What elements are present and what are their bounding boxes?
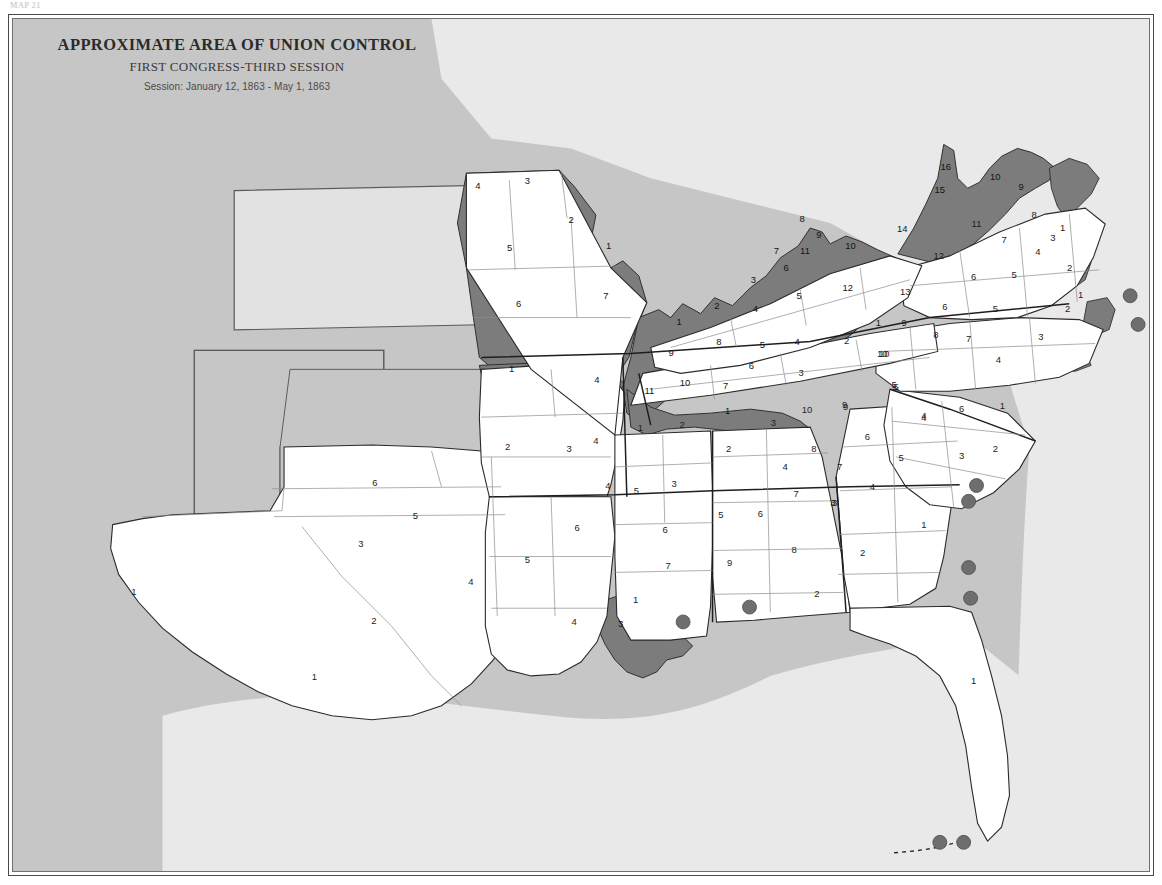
plate-header-note: MAP 21 bbox=[10, 1, 41, 10]
union-port-dot[interactable] bbox=[962, 561, 976, 575]
union-port-dot[interactable] bbox=[933, 835, 947, 849]
union-port-dot[interactable] bbox=[962, 494, 976, 508]
union-port-dot[interactable] bbox=[970, 479, 984, 493]
map-canvas[interactable]: 4325167142389711106352412185964137312101… bbox=[12, 18, 1150, 872]
state-mississippi bbox=[615, 431, 713, 640]
union-port-dot[interactable] bbox=[964, 591, 978, 605]
union-port-dot[interactable] bbox=[676, 615, 690, 629]
union-port-dot[interactable] bbox=[1123, 289, 1137, 303]
union-port-dot[interactable] bbox=[957, 835, 971, 849]
union-control-map[interactable]: 4325167142389711106352412185964137312101… bbox=[13, 19, 1149, 871]
map-plate-frame: 4325167142389711106352412185964137312101… bbox=[8, 14, 1154, 876]
union-port-dot[interactable] bbox=[743, 600, 757, 614]
kansas-state bbox=[234, 185, 491, 330]
union-port-dot[interactable] bbox=[1131, 317, 1145, 331]
